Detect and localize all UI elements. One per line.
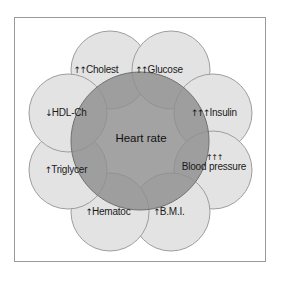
- center-circle-heart-rate[interactable]: [71, 72, 209, 210]
- risk-factor-diagram: [14, 17, 266, 262]
- figure-root: ↑↑Cholest ↑↑Glucose ↑↑↑Insulin ↑↑↑Blood …: [0, 0, 282, 293]
